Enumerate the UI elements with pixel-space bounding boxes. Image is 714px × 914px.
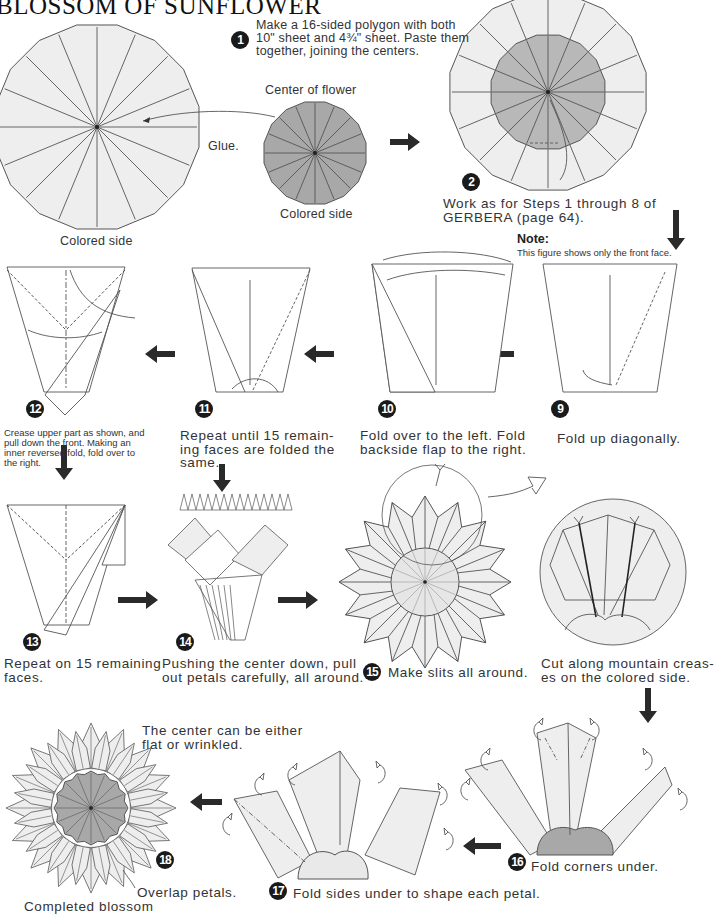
step16-curl-arrow (680, 792, 687, 810)
step14-petal-right (232, 525, 288, 575)
step-arrow-11-12 (145, 345, 175, 363)
step-15-line: Make slits all around. (388, 666, 528, 680)
step-1-line: together, joining the centers. (256, 45, 469, 58)
step-badge-14: 14 (176, 633, 194, 651)
step-15-detail-line: Cut along mountain creas- (541, 657, 714, 671)
step14-top-tooth (228, 494, 236, 510)
step-14-line: Pushing the center down, pull (162, 657, 364, 671)
step16-curl-arrow (645, 752, 652, 770)
step15-center-dot (423, 580, 427, 584)
step-badge-10: 10 (378, 400, 396, 418)
step14-top-tooth (180, 494, 188, 510)
center-note-line: The center can be either (142, 724, 303, 738)
step15-hollow-arrow (488, 477, 546, 497)
step-arrow-10-11 (304, 345, 334, 363)
step16-curl-arrow-head (486, 748, 490, 755)
step16-curl-arrow-head (678, 788, 682, 795)
step16-center (537, 827, 613, 855)
step-11-line: same. (180, 456, 335, 470)
step17-curl-arrow (378, 765, 385, 783)
center-note-line: flat or wrinkled. (142, 738, 303, 752)
step17-curl-arrow-head (438, 783, 442, 790)
step-badge-17: 17 (269, 882, 287, 900)
step14-top-tooth (284, 494, 292, 510)
step14-top-tooth (204, 494, 212, 510)
step17-curl-arrow (440, 787, 447, 805)
step14-top-tooth (260, 494, 268, 510)
step17-curl-arrow-head (260, 773, 264, 780)
step17-curl-arrow (255, 777, 262, 795)
step-9-line: Fold up diagonally. (557, 432, 681, 446)
step-10-instructions: Fold over to the left. Fold backside fla… (360, 429, 526, 456)
step18-center-dot (89, 806, 93, 810)
step-arrow-2-9 (667, 210, 685, 250)
step-11-line: ing faces are folded the (180, 443, 335, 457)
label-glue: Glue. (208, 140, 239, 153)
step14-top-tooth (188, 494, 196, 510)
step-15-detail-line: es on the colored side. (541, 671, 714, 685)
step-9-instructions: Fold up diagonally. (557, 432, 681, 446)
step-14-instructions: Pushing the center down, pull out petals… (162, 657, 364, 684)
step18-leader-line (123, 870, 135, 888)
step16-curl-arrow-head (466, 778, 470, 785)
step-13-instructions: Repeat on 15 remaining faces. (4, 657, 161, 684)
step-arrow-16-17 (463, 837, 501, 855)
step17-curl-arrow (446, 832, 453, 850)
step-badge-9: 9 (551, 400, 569, 418)
step16-curl-arrow (461, 782, 468, 800)
step14-stem (195, 575, 262, 640)
step-13-line: Repeat on 15 remaining (4, 657, 161, 671)
step14-top-tooth (252, 494, 260, 510)
step-arrow-17-18 (190, 793, 222, 811)
step17-curl-arrow-head (444, 828, 448, 835)
step16-petal-center (537, 723, 596, 842)
step-17-line: Fold sides under to shape each petal. (293, 887, 540, 901)
step14-top-tooth (212, 494, 220, 510)
large-16gon-center-dot (95, 125, 99, 129)
step-10-line: backside flap to the right. (360, 443, 526, 457)
step-1-instructions: Make a 16-sided polygon with both 10" sh… (256, 19, 469, 58)
step-arrow-14-15 (278, 591, 318, 609)
step14-top-tooth (276, 494, 284, 510)
step-2-line: Work as for Steps 1 through 8 of (443, 197, 656, 211)
step-15-detail-instructions: Cut along mountain creas- es on the colo… (541, 657, 714, 684)
note-text: This figure shows only the front face. (517, 248, 672, 258)
step-2-line: GERBERA (page 64). (443, 211, 656, 225)
step-18-line: Overlap petals. (137, 886, 237, 900)
step14-top-tooth (268, 494, 276, 510)
step-16-line: Fold corners under. (531, 860, 659, 874)
label-colored-side-small: Colored side (280, 208, 353, 221)
step-12-instructions: Crease upper part as shown, and pull dow… (4, 428, 144, 468)
step17-curl-arrow (223, 817, 230, 835)
step-11-instructions: Repeat until 15 remain- ing faces are fo… (180, 429, 335, 470)
step17-curl-arrow-head (228, 813, 232, 820)
step17-curl-arrow-head (293, 763, 297, 770)
step-18-instructions: Overlap petals. (137, 886, 237, 900)
step16-curl-arrow-head (590, 718, 594, 725)
step-14-line: out petals carefully, all around. (162, 671, 364, 685)
label-completed-blossom: Completed blossom (24, 900, 154, 914)
step15-detail-bubble (540, 499, 686, 645)
step-arrow-1-2 (390, 133, 420, 151)
step-13-line: faces. (4, 671, 161, 685)
step14-stem-line (230, 585, 235, 640)
step14-top-tooth (196, 494, 204, 510)
step10-top-arrow (383, 252, 511, 262)
step-badge-2: 2 (462, 173, 480, 191)
step-badge-11: 11 (195, 400, 213, 418)
center-note: The center can be either flat or wrinkle… (142, 724, 303, 751)
step-badge-1: 1 (231, 31, 249, 49)
step-10-line: Fold over to the left. Fold (360, 429, 526, 443)
step-badge-13: 13 (23, 633, 41, 651)
step14-top-tooth (244, 494, 252, 510)
step-15-instructions: Make slits all around. (388, 666, 528, 680)
step16-curl-arrow-head (539, 718, 543, 725)
step15-slit-mark (435, 464, 445, 486)
step-12-line: the right. (4, 458, 144, 468)
step2-center-dot (546, 90, 550, 94)
step-badge-15: 15 (363, 663, 381, 681)
step-11-line: Repeat until 15 remain- (180, 429, 335, 443)
step-badge-16: 16 (508, 853, 526, 871)
step-2-instructions: Work as for Steps 1 through 8 of GERBERA… (443, 197, 656, 224)
label-center-of-flower: Center of flower (265, 84, 356, 97)
